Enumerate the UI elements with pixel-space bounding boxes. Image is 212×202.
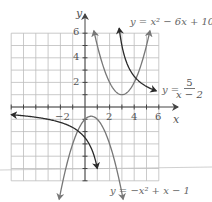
- fraction-numerator: 5: [184, 77, 194, 89]
- x-tick-label: 4: [131, 112, 137, 122]
- y-tick-label: 4: [73, 52, 79, 62]
- x-tick-label: −2: [55, 112, 70, 122]
- equation-parabola-down: y = −x² + x − 1: [110, 186, 190, 196]
- parabola-up-curve: [94, 31, 122, 95]
- fraction-denominator: x − 2: [176, 89, 203, 100]
- x-axis-label: x: [173, 114, 179, 125]
- y-tick-label: 2: [73, 77, 79, 87]
- x-tick-label: 2: [106, 112, 112, 122]
- x-tick-label: 6: [155, 112, 161, 122]
- equation-parabola-up: y = x² − 6x + 10: [130, 17, 212, 27]
- rational-right-branch: [138, 80, 157, 91]
- equation-rational-fraction: 5 x − 2: [176, 77, 203, 100]
- graph-canvas: [0, 0, 212, 202]
- y-axis-label: y: [76, 8, 82, 19]
- y-tick-label: 6: [73, 27, 79, 37]
